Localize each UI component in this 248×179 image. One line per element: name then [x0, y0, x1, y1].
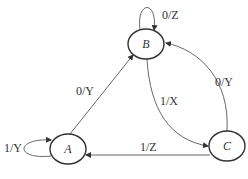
- state-a-label: A: [63, 142, 72, 156]
- edge-b-b: [140, 8, 155, 31]
- edge-a-a: [24, 140, 51, 157]
- label-a-b: 0/Y: [76, 84, 94, 98]
- label-c-b: 0/Y: [215, 75, 233, 89]
- state-c: C: [209, 131, 245, 161]
- label-c-a: 1/Z: [140, 140, 157, 154]
- state-b-label: B: [142, 37, 150, 51]
- state-b: B: [128, 29, 164, 59]
- state-c-label: C: [223, 139, 232, 153]
- state-a: A: [50, 134, 86, 164]
- label-a-a: 1/Y: [4, 141, 22, 155]
- label-b-b: 0/Z: [162, 8, 179, 22]
- state-diagram: 0/Z 0/Y 1/X 0/Y 1/Z 1/Y B A C: [0, 0, 248, 179]
- label-b-c: 1/X: [160, 94, 178, 108]
